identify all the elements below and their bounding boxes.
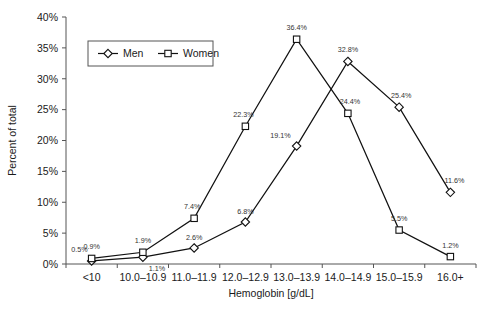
data-marker-square (88, 255, 94, 261)
data-label: 32.8% (338, 45, 359, 54)
legend-label: Women (183, 47, 219, 59)
y-tick-label: 30% (37, 73, 58, 85)
x-tick-label: 14.0–14.9 (325, 271, 372, 283)
y-tick-label: 0% (43, 258, 58, 270)
data-marker-square (165, 50, 171, 56)
y-axis: 0%5%10%15%20%25%30%35%40%Percent of tota… (6, 11, 66, 270)
chart-container: 0%5%10%15%20%25%30%35%40%Percent of tota… (0, 0, 487, 311)
data-label: 5.5% (391, 214, 408, 223)
data-marker-square (140, 249, 146, 255)
x-axis: <1010.0–10.911.0–11.912.0–12.913.0–13.91… (66, 264, 476, 299)
data-label: 24.4% (340, 97, 361, 106)
x-tick-label: 11.0–11.9 (172, 271, 217, 283)
data-label: 19.1% (270, 131, 291, 140)
legend: MenWomen (88, 41, 219, 66)
series-line (92, 39, 451, 258)
x-tick-label: 13.0–13.9 (273, 271, 320, 283)
y-tick-label: 35% (37, 42, 58, 54)
data-marker-square (242, 123, 248, 129)
data-label: 1.2% (442, 241, 459, 250)
data-label: 6.8% (237, 207, 254, 216)
data-label: 1.1% (149, 264, 166, 273)
hemoglobin-distribution-line-chart: 0%5%10%15%20%25%30%35%40%Percent of tota… (0, 0, 487, 311)
data-marker-square (447, 253, 453, 259)
x-tick-label: 12.0–12.9 (222, 271, 269, 283)
data-marker-square (345, 110, 351, 116)
x-tick-label: 16.0+ (437, 271, 464, 283)
y-tick-label: 25% (37, 103, 58, 115)
data-label: 22.3% (233, 110, 254, 119)
y-tick-label: 15% (37, 165, 58, 177)
data-marker-diamond (190, 244, 198, 252)
x-tick-label: 15.0–15.9 (376, 271, 423, 283)
series-men: 0.5%1.1%2.6%6.8%19.1%32.8%25.4%11.6% (71, 45, 465, 273)
x-axis-title: Hemoglobin [g/dL] (228, 287, 313, 299)
data-label: 11.6% (444, 176, 464, 185)
data-marker-diamond (241, 218, 249, 226)
data-label: 36.4% (286, 23, 307, 32)
data-label: 1.9% (135, 236, 152, 245)
data-marker-square (396, 227, 402, 233)
data-label: 0.9% (83, 242, 100, 251)
data-label: 7.4% (184, 202, 201, 211)
data-marker-diamond (292, 142, 300, 150)
x-tick-label: <10 (83, 271, 101, 283)
y-tick-label: 40% (37, 11, 58, 23)
y-axis-title: Percent of total (6, 105, 18, 176)
y-tick-label: 10% (37, 196, 58, 208)
data-marker-square (191, 215, 197, 221)
data-marker-square (293, 36, 299, 42)
legend-label: Men (123, 47, 144, 59)
data-label: 2.6% (186, 233, 203, 242)
data-marker-diamond (446, 188, 454, 196)
y-tick-label: 5% (43, 227, 58, 239)
y-tick-label: 20% (37, 134, 58, 146)
data-label: 25.4% (391, 91, 412, 100)
